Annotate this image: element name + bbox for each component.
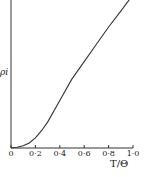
x-tick-label: 0·2 bbox=[29, 149, 42, 158]
x-axis-label: T/Θ bbox=[110, 158, 128, 169]
y-axis-label: ρi bbox=[0, 67, 8, 77]
x-tick-label: 0·4 bbox=[53, 149, 66, 158]
data-curve bbox=[11, 0, 129, 148]
x-tick-label: 0·8 bbox=[102, 149, 115, 158]
x-tick-label: 0·6 bbox=[78, 149, 91, 158]
x-tick-label: 0 bbox=[8, 149, 13, 158]
x-tick-label: 1·0 bbox=[127, 149, 140, 158]
